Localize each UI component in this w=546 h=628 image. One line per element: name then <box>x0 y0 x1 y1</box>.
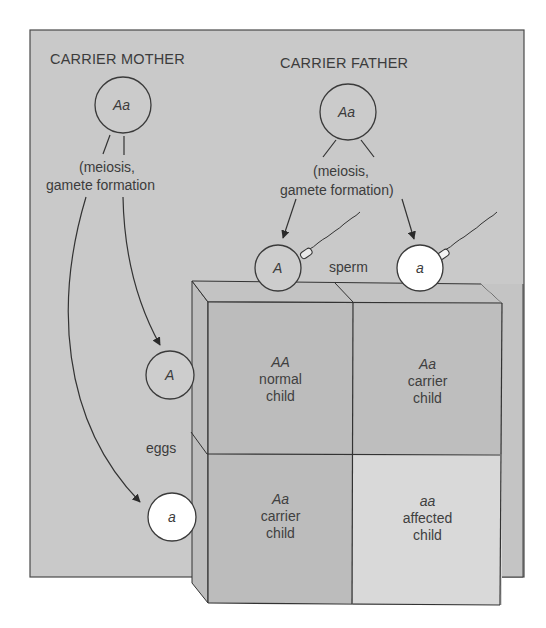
cell-child: child <box>353 390 502 407</box>
cell-genotype: AA <box>208 354 353 371</box>
cell-genotype: Aa <box>353 356 502 373</box>
cell-AA-text: AA normal child <box>208 354 353 405</box>
sperm-A-allele: A <box>273 261 282 275</box>
sperm-label: sperm <box>329 260 368 274</box>
cell-child: child <box>353 527 502 544</box>
cell-aa-text: aa affected child <box>353 493 502 544</box>
cell-genotype: Aa <box>208 491 353 508</box>
sperm-a-allele: a <box>416 261 424 275</box>
box-left-face <box>192 281 208 603</box>
father-title: CARRIER FATHER <box>280 56 408 71</box>
father-process-line1: (meiosis, <box>313 164 369 178</box>
cell-Aa-bottom-text: Aa carrier child <box>208 491 353 542</box>
mother-process-line2: gamete formation <box>46 178 155 192</box>
egg-A-allele: A <box>165 368 174 382</box>
mother-genotype: Aa <box>113 98 130 112</box>
father-process-line2: gamete formation) <box>280 183 394 197</box>
punnett-diagram: CARRIER MOTHER CARRIER FATHER Aa Aa (mei… <box>0 0 546 628</box>
cell-child: child <box>208 388 353 405</box>
cell-phenotype: affected <box>353 510 502 527</box>
father-genotype: Aa <box>338 105 355 119</box>
mother-title: CARRIER MOTHER <box>50 52 185 67</box>
eggs-label: eggs <box>146 441 176 455</box>
cell-phenotype: carrier <box>208 508 353 525</box>
cell-genotype: aa <box>353 493 502 510</box>
cell-phenotype: normal <box>208 371 353 388</box>
mother-process-line1: (meiosis, <box>79 160 135 174</box>
cell-child: child <box>208 525 353 542</box>
egg-a-allele: a <box>168 510 176 524</box>
box-top-face <box>192 281 502 303</box>
cell-phenotype: carrier <box>353 373 502 390</box>
cell-Aa-top-text: Aa carrier child <box>353 356 502 407</box>
